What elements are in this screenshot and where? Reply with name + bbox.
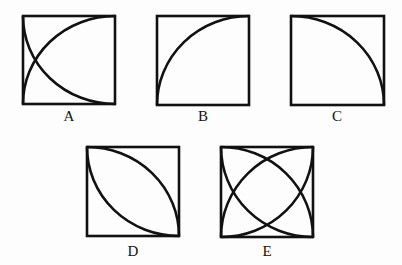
figure-d	[87, 147, 179, 236]
figure-d-label: D	[128, 243, 139, 260]
figure-b-arc	[157, 16, 249, 105]
figure-b	[157, 16, 249, 105]
figure-e-label: E	[262, 243, 271, 260]
figure-c-label: C	[332, 108, 342, 125]
figure-c	[291, 16, 384, 105]
figure-a	[23, 16, 115, 104]
figures-canvas	[0, 0, 402, 265]
figure-e	[221, 147, 313, 237]
figure-c-arc	[291, 16, 384, 105]
figure-a-label: A	[64, 108, 75, 125]
figure-b-label: B	[198, 108, 208, 125]
